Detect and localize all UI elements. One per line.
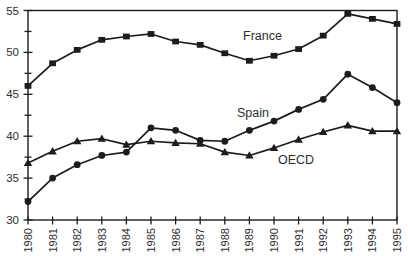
series-marker-circle-spain bbox=[98, 152, 105, 159]
series-marker-circle-spain bbox=[148, 124, 155, 131]
series-line-spain bbox=[28, 74, 397, 201]
series-marker-circle-spain bbox=[394, 99, 401, 106]
y-axis-tick-label: 35 bbox=[6, 172, 19, 184]
series-marker-square-france bbox=[320, 33, 327, 39]
x-axis-tick-label: 1994 bbox=[366, 228, 378, 252]
series-marker-circle-spain bbox=[344, 71, 351, 78]
x-axis-tick-label: 1986 bbox=[170, 228, 182, 252]
series-marker-circle-spain bbox=[74, 161, 81, 168]
series-marker-square-france bbox=[49, 60, 56, 66]
series-marker-square-france bbox=[221, 50, 228, 56]
x-axis-tick-label: 1992 bbox=[317, 228, 329, 252]
x-axis-tick-label: 1989 bbox=[243, 228, 255, 252]
x-axis-tick-label: 1987 bbox=[194, 228, 206, 252]
series-label-france: France bbox=[243, 29, 282, 43]
series-marker-square-france bbox=[344, 11, 351, 17]
x-axis-tick-label: 1995 bbox=[391, 228, 403, 252]
series-line-france bbox=[28, 14, 397, 86]
series-line-oecd bbox=[28, 125, 397, 163]
line-chart-figure: 3035404550551980198119821983198419851986… bbox=[0, 0, 408, 256]
series-marker-square-france bbox=[369, 16, 376, 22]
x-axis-tick-label: 1983 bbox=[96, 228, 108, 252]
x-axis-tick-label: 1991 bbox=[293, 228, 305, 252]
series-marker-circle-spain bbox=[320, 96, 327, 103]
series-marker-circle-spain bbox=[123, 149, 130, 156]
series-marker-square-france bbox=[246, 58, 253, 64]
series-marker-square-france bbox=[172, 39, 179, 45]
series-marker-square-france bbox=[98, 37, 105, 43]
series-marker-square-france bbox=[123, 34, 130, 40]
y-axis-tick-label: 55 bbox=[6, 5, 19, 17]
series-marker-circle-spain bbox=[49, 175, 56, 182]
x-axis-tick-label: 1985 bbox=[145, 228, 157, 252]
series-marker-triangle-oecd bbox=[344, 121, 352, 128]
plot-frame bbox=[28, 11, 397, 221]
series-marker-circle-spain bbox=[172, 127, 179, 134]
series-label-oecd: OECD bbox=[278, 153, 314, 167]
x-axis-tick-label: 1988 bbox=[219, 228, 231, 252]
series-marker-circle-spain bbox=[246, 127, 253, 134]
x-axis-tick-label: 1984 bbox=[120, 228, 132, 252]
series-label-spain: Spain bbox=[237, 106, 269, 120]
series-marker-circle-spain bbox=[221, 138, 228, 145]
series-marker-circle-spain bbox=[369, 84, 376, 91]
series-marker-square-france bbox=[295, 46, 302, 52]
y-axis-tick-label: 45 bbox=[6, 88, 19, 100]
series-marker-square-france bbox=[148, 31, 155, 37]
series-marker-square-france bbox=[271, 53, 278, 59]
x-axis-tick-label: 1980 bbox=[22, 228, 34, 252]
y-axis-tick-label: 40 bbox=[6, 130, 19, 142]
x-axis-tick-label: 1993 bbox=[342, 228, 354, 252]
series-marker-square-france bbox=[74, 47, 81, 53]
series-marker-circle-spain bbox=[25, 198, 32, 205]
x-axis-tick-label: 1981 bbox=[47, 228, 59, 252]
x-axis-tick-label: 1990 bbox=[268, 228, 280, 252]
series-marker-circle-spain bbox=[295, 106, 302, 113]
y-axis-tick-label: 30 bbox=[6, 214, 19, 226]
y-axis-tick-label: 50 bbox=[6, 46, 19, 58]
chart-svg: 3035404550551980198119821983198419851986… bbox=[0, 0, 408, 256]
x-axis-tick-label: 1982 bbox=[71, 228, 83, 252]
series-marker-square-france bbox=[25, 83, 32, 89]
series-marker-square-france bbox=[197, 42, 204, 48]
series-marker-circle-spain bbox=[271, 118, 278, 125]
series-marker-square-france bbox=[394, 21, 401, 27]
